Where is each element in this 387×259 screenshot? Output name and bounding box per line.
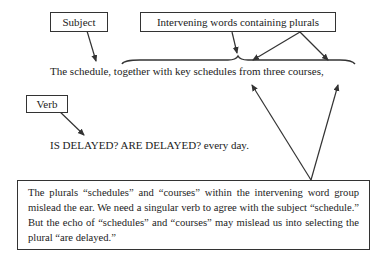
subject-arrow: [87, 31, 96, 61]
verb-sentence: IS DELAYED? ARE DELAYED? every day.: [50, 139, 249, 151]
intervening-label-text: Intervening words containing plurals: [157, 17, 319, 28]
verb-label-text: Verb: [37, 99, 58, 110]
intervening-brace: [122, 56, 355, 64]
intervening-to-courses-arrow: [300, 32, 328, 60]
intervening-label: Intervening words containing plurals: [140, 12, 336, 32]
explanation-box: The plurals “schedules” and “courses” wi…: [17, 180, 370, 250]
main-sentence: The schedule, together with key schedule…: [50, 65, 324, 77]
subject-label-text: Subject: [63, 17, 96, 28]
intervening-to-schedules-arrow: [253, 32, 300, 60]
subject-label: Subject: [50, 12, 108, 32]
explain-to-schedules-arrow: [252, 85, 311, 180]
verb-label: Verb: [26, 95, 68, 113]
explain-to-courses-arrow: [311, 85, 338, 180]
intervening-to-brace-arrow: [232, 32, 237, 53]
